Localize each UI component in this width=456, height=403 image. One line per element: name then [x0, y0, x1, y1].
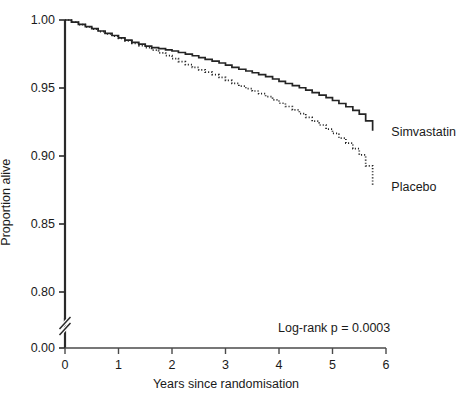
axes-group [65, 20, 386, 348]
series-label-simvastatin: Simvastatin [391, 126, 456, 139]
y-tick-label-5: 1.00 [0, 14, 55, 27]
x-axis-title: Years since randomisation [153, 378, 299, 391]
ticks-group [59, 20, 386, 354]
series-curve-placebo [65, 20, 373, 186]
x-tick-label-3: 3 [222, 359, 229, 372]
x-tick-label-1: 1 [115, 359, 122, 372]
y-tick-label-4: 0.95 [0, 82, 55, 95]
y-tick-label-0: 0.00 [0, 342, 55, 355]
logrank-pvalue-annotation: Log-rank p = 0.0003 [278, 322, 390, 335]
x-tick-label-6: 6 [383, 359, 390, 372]
x-tick-label-4: 4 [276, 359, 283, 372]
y-axis-title: Proportion alive [0, 159, 12, 246]
x-tick-label-5: 5 [329, 359, 336, 372]
x-tick-label-2: 2 [169, 359, 176, 372]
series-group [65, 20, 373, 186]
x-tick-label-0: 0 [62, 359, 69, 372]
y-tick-label-1: 0.80 [0, 286, 55, 299]
series-label-placebo: Placebo [391, 180, 436, 193]
